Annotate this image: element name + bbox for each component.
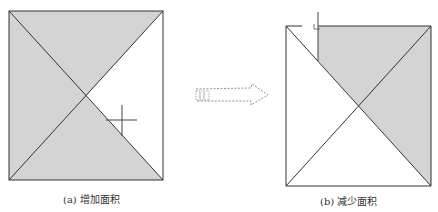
arrow-box-marker — [196, 91, 209, 100]
caption-panel-a: (a) 增加面积 — [63, 191, 120, 206]
panel-b — [286, 12, 431, 186]
caption-panel-b: (b) 减少面积 — [320, 193, 377, 208]
transition-arrow-icon — [196, 84, 268, 105]
panel-a — [9, 11, 163, 180]
panel-b-shaded-region — [318, 26, 431, 186]
area-adjust-diagram — [0, 0, 438, 212]
